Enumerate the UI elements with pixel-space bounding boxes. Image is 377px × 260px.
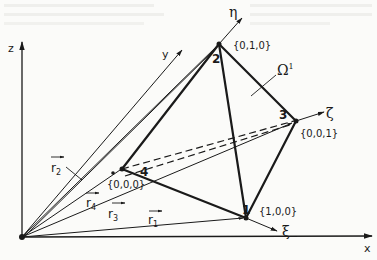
node-1-coords: {1,0,0} (259, 206, 297, 217)
r4-label: r4 (86, 196, 96, 212)
zeta-label: ζ (326, 105, 334, 121)
node-1-number: 1 (242, 203, 250, 217)
xi-label: ξ (282, 223, 290, 239)
diagram-canvas: z x y η ζ ξ Ω1 1 {1,0,0} 2 {0,1,0} 3 {0,… (0, 0, 377, 260)
node-3-number: 3 (279, 108, 287, 122)
r3-label: r3 (108, 207, 118, 223)
r2-label: r2 (51, 161, 61, 177)
y-axis-label: y (162, 48, 169, 61)
node-4-number: 4 (140, 165, 148, 179)
node-3-coords: {0,0,1} (300, 128, 338, 139)
diagram-labels: z x y η ζ ξ Ω1 1 {1,0,0} 2 {0,1,0} 3 {0,… (0, 0, 377, 260)
node-2-coords: {0,1,0} (233, 40, 271, 51)
eta-label: η (229, 4, 237, 20)
region-label: Ω1 (277, 62, 294, 78)
r1-label: r1 (148, 213, 158, 229)
node-2-number: 2 (212, 52, 220, 66)
x-axis-label: x (364, 242, 371, 255)
z-axis-label: z (8, 42, 14, 55)
node-4-coords: {0,0,0} (107, 179, 145, 190)
